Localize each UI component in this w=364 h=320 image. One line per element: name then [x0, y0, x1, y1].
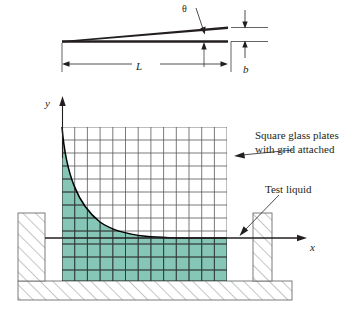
x-axis-arrow-icon	[297, 235, 307, 241]
x-axis-label: x	[310, 241, 315, 253]
annotation-glass-plates: Square glass plates with grid attached	[255, 128, 339, 156]
annotation-test-liquid: Test liquid	[265, 183, 312, 195]
y-axis-arrow-icon	[59, 96, 65, 106]
dimension-L	[62, 42, 228, 72]
annotation-glass-plates-line2: with grid attached	[255, 142, 339, 156]
dimension-label-L: L	[136, 60, 142, 72]
test-liquid-fill	[62, 127, 227, 281]
dimension-label-b: b	[243, 63, 249, 75]
y-axis-label: y	[45, 97, 50, 109]
trough-floor-hatch	[18, 281, 292, 300]
trough-right-wall-hatch	[253, 213, 272, 281]
trough-left-wall-hatch	[18, 213, 45, 281]
dimension-label-theta: θ	[182, 3, 187, 14]
capillary-rise-figure	[0, 0, 364, 320]
wedge-side-view	[62, 8, 268, 72]
annotation-glass-plates-line1: Square glass plates	[255, 128, 339, 142]
